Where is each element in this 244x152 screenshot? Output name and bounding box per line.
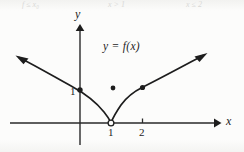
right-branch-arrowhead: [195, 53, 208, 62]
left-branch-arrowhead: [16, 56, 29, 65]
x-axis-arrowhead: [214, 119, 222, 128]
x-axis-label: x: [226, 115, 231, 127]
curve-left-branch: [16, 56, 112, 123]
plot-canvas: [0, 0, 244, 152]
y-axis-label: y: [75, 8, 80, 20]
point-y-intercept: [77, 87, 82, 92]
right-branch-path: [111, 56, 203, 123]
y-tick-label-1: 1: [70, 86, 76, 97]
curve-right-branch: [111, 53, 208, 123]
point-on-right-branch: [140, 85, 145, 90]
left-branch-path: [19, 58, 111, 123]
x-tick-label-1: 1: [108, 127, 114, 138]
x-tick-label-2: 2: [139, 127, 145, 138]
curve-equation-label: y = f(x): [103, 41, 140, 53]
function-graph-figure: f ≤ x₀ x > 1 x ≤ 2: [0, 0, 244, 152]
point-isolated-value-at-x-1: [111, 86, 116, 91]
y-axis-arrowhead: [76, 24, 85, 31]
